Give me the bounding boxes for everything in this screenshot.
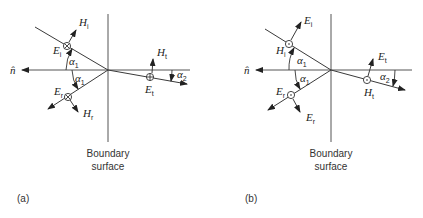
diagram-canvas: n̂ Hi Ei α1 α1 Er Hr Ht Et α2 Boundary s… <box>0 0 423 218</box>
transmitted-h-label: Ht <box>156 46 167 60</box>
reflected-e-label: Er <box>53 85 64 99</box>
incident-h-out-of-page-icon <box>285 40 292 47</box>
boundary-label-line2: surface <box>315 161 348 172</box>
boundary-label-line1: Boundary <box>310 148 353 159</box>
panel-caption: (a) <box>17 193 29 204</box>
incident-h-label: Hi <box>78 16 89 30</box>
transmitted-h-out-of-page-icon <box>363 76 370 83</box>
angle-arc-incident <box>289 48 294 70</box>
angle-arc-transmitted <box>171 70 172 81</box>
reflected-e-into-page-icon <box>64 93 71 100</box>
normal-label: n̂ <box>244 64 250 76</box>
normal-label: n̂ <box>10 64 16 76</box>
transmitted-h-arrow <box>152 59 153 73</box>
angle-reflected-label: α1 <box>75 72 85 86</box>
incident-e-label: Ei <box>52 44 62 58</box>
incident-e-into-page-icon <box>63 42 70 49</box>
boundary-label-line1: Boundary <box>87 148 130 159</box>
incident-e-label: Ei <box>303 14 313 28</box>
angle-arc-transmitted <box>393 70 395 86</box>
reflected-e-label: Er <box>275 85 286 99</box>
reflected-h-out-of-page-icon <box>287 91 294 98</box>
angle-reflected-label: α1 <box>300 72 310 86</box>
transmitted-e-arrow <box>368 59 373 76</box>
reflected-h-label: Hr <box>82 107 94 121</box>
panel-caption: (b) <box>245 193 257 204</box>
boundary-label-line2: surface <box>92 161 125 172</box>
transmitted-h-label: Ht <box>363 86 374 100</box>
angle-incident-label: α1 <box>297 54 307 68</box>
incident-e-arrow <box>291 22 301 40</box>
transmitted-e-label: Et <box>144 83 154 97</box>
reflected-e-arrow <box>293 99 300 112</box>
angle-transmitted-label: α2 <box>380 70 390 84</box>
transmitted-e-into-page-icon <box>146 73 153 80</box>
incident-h-arrow <box>69 30 76 42</box>
incident-h-label: Hi <box>275 44 286 58</box>
reflected-second-label: Er <box>305 111 316 125</box>
panel-b: n̂ Ei Hi α1 α1 Er Er Et Ht α2 Boundary s… <box>244 14 412 204</box>
transmitted-e-label: Et <box>377 50 387 64</box>
angle-incident-label: α1 <box>69 55 79 69</box>
panel-a: n̂ Hi Ei α1 α1 Er Hr Ht Et α2 Boundary s… <box>10 14 190 204</box>
reflected-h-arrow <box>70 100 78 112</box>
